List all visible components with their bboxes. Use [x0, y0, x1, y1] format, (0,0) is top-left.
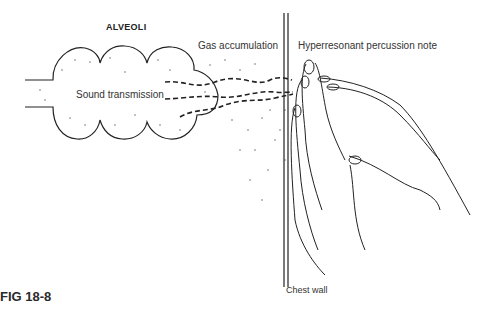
- sound-transmission-label: Sound transmission: [76, 89, 164, 100]
- figure-number: FIG 18-8: [0, 289, 51, 304]
- percussion-note-label: Hyperresonant percussion note: [298, 40, 437, 51]
- chest-wall-lines: [284, 13, 288, 287]
- gas-accumulation-label: Gas accumulation: [198, 40, 278, 51]
- alveoli-title: ALVEOLI: [106, 22, 146, 32]
- chest-wall-label: Chest wall: [286, 285, 328, 295]
- gas-dots: [39, 57, 285, 200]
- sound-wave-lines: [165, 78, 293, 117]
- percussing-hands: [291, 60, 470, 275]
